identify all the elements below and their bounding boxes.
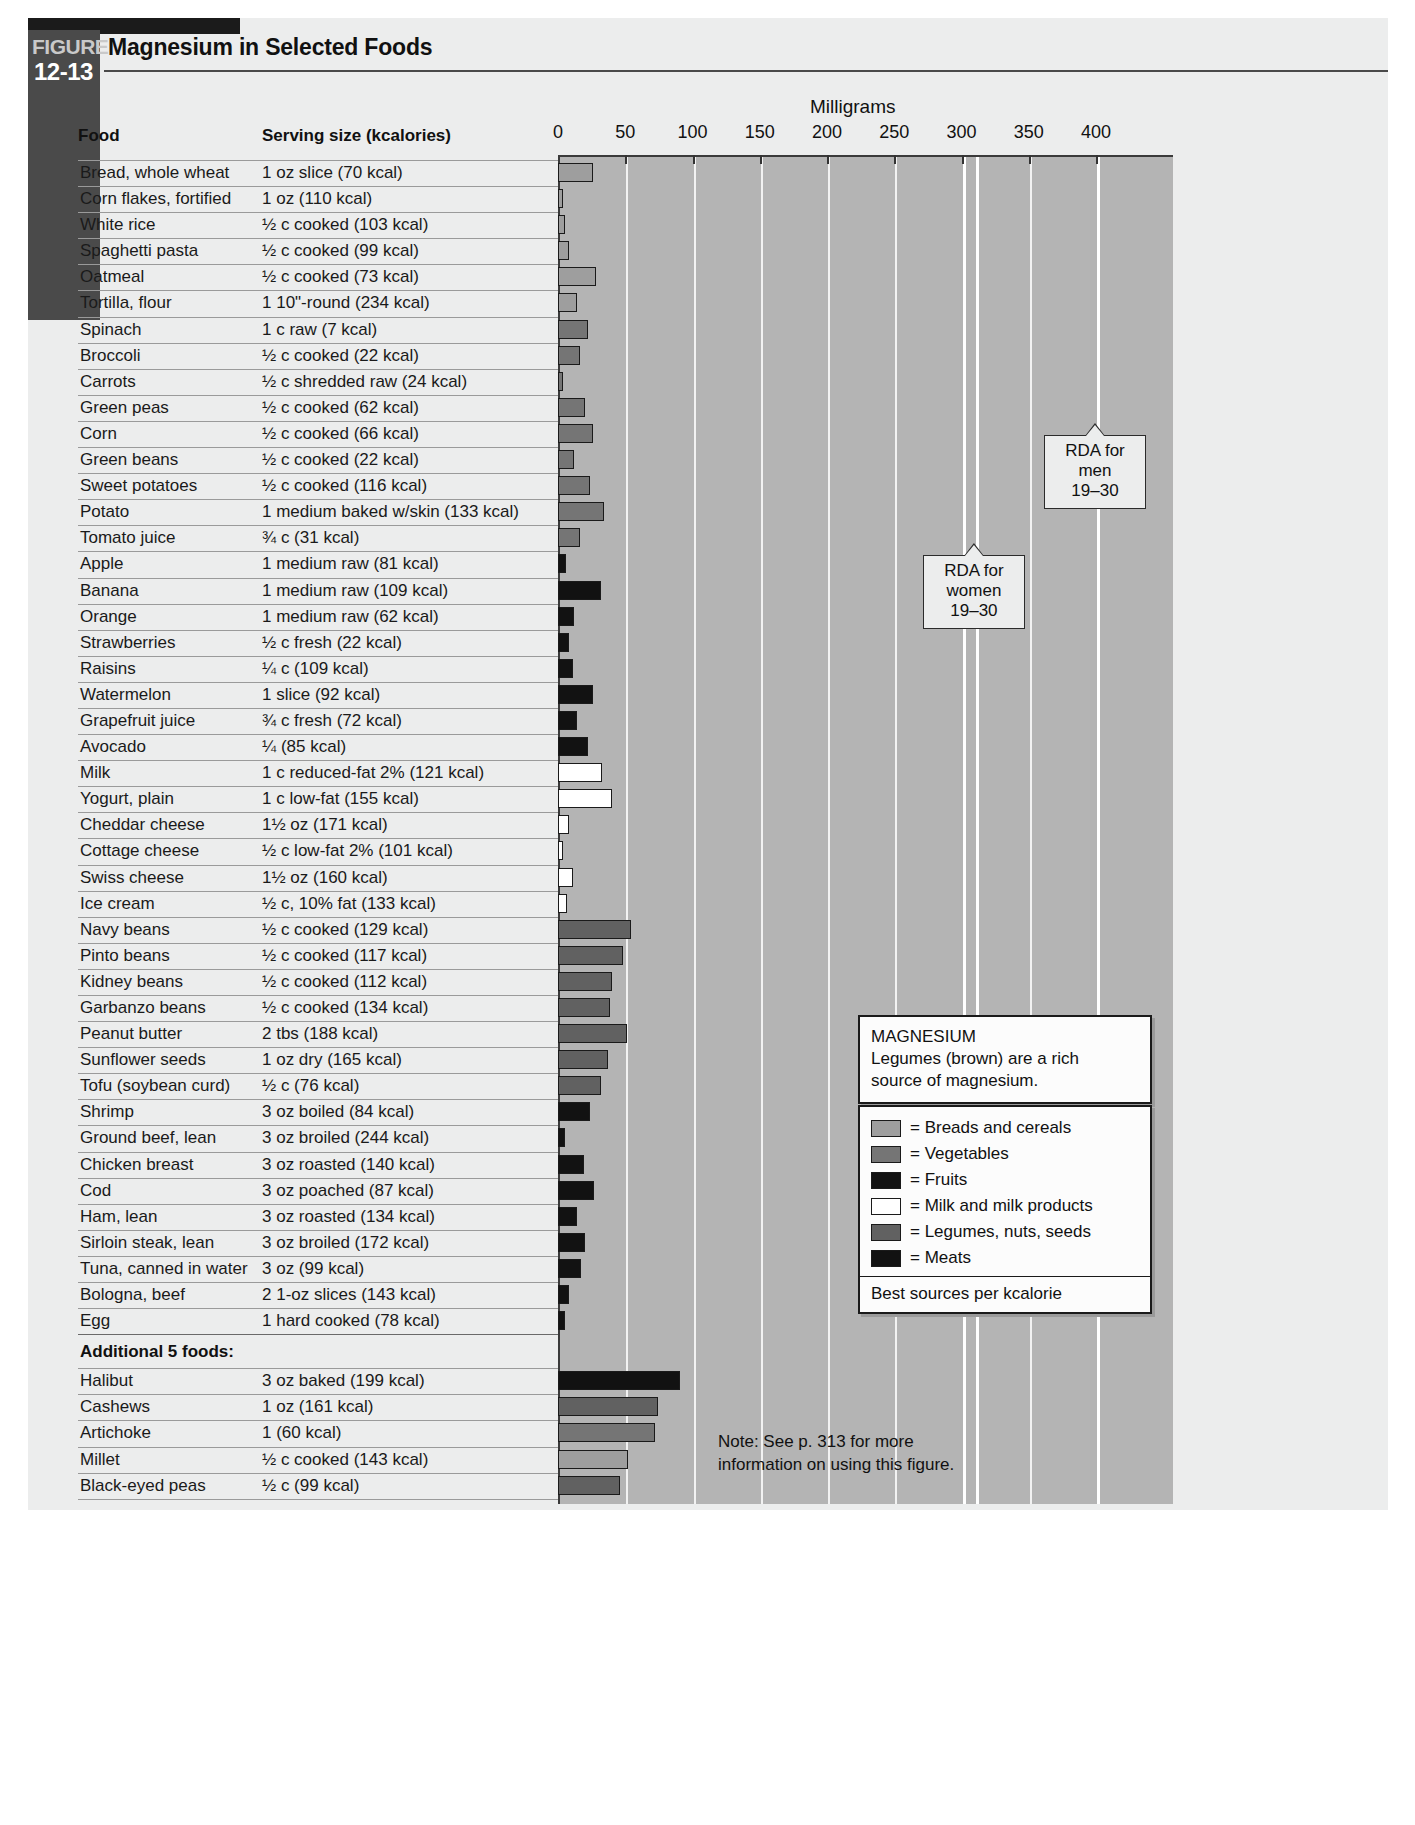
food-name: Artichoke xyxy=(80,1423,151,1443)
food-name: Egg xyxy=(80,1311,110,1331)
food-name: Spinach xyxy=(80,320,141,340)
legend-swatch-veg xyxy=(871,1146,901,1163)
bar-milk xyxy=(558,789,612,808)
bar-veg xyxy=(558,372,563,391)
food-name: Raisins xyxy=(80,659,136,679)
additional-foods-header: Additional 5 foods: xyxy=(78,1334,1173,1368)
callout-line: men xyxy=(1054,461,1136,481)
bar-milk xyxy=(558,763,602,782)
food-name: White rice xyxy=(80,215,156,235)
bar-meat xyxy=(558,1102,590,1121)
row-separator xyxy=(78,421,558,422)
row-separator xyxy=(78,812,558,813)
serving-size: ½ c fresh (22 kcal) xyxy=(262,633,402,653)
table-row: White rice½ c cooked (103 kcal) xyxy=(78,212,1173,238)
table-row: Cheddar cheese1½ oz (171 kcal) xyxy=(78,812,1173,838)
figure-number: 12-13 xyxy=(34,58,93,86)
legend-item-bread: = Breads and cereals xyxy=(871,1115,1139,1141)
food-name: Grapefruit juice xyxy=(80,711,195,731)
column-header-food: Food xyxy=(78,126,120,146)
serving-size: ½ c cooked (112 kcal) xyxy=(262,972,427,992)
food-name: Oatmeal xyxy=(80,267,144,287)
food-name: Chicken breast xyxy=(80,1155,193,1175)
info-title: MAGNESIUM xyxy=(871,1026,1139,1048)
table-row: Cottage cheese½ c low-fat 2% (101 kcal) xyxy=(78,838,1173,864)
rda-men-callout: RDA formen19–30 xyxy=(1044,435,1146,509)
food-name: Watermelon xyxy=(80,685,171,705)
bar-meat xyxy=(558,1181,594,1200)
food-name: Apple xyxy=(80,554,123,574)
bar-bread xyxy=(558,163,593,182)
callout-line: RDA for xyxy=(1054,441,1136,461)
food-name: Tofu (soybean curd) xyxy=(80,1076,230,1096)
row-separator xyxy=(78,786,558,787)
serving-size: 3 oz (99 kcal) xyxy=(262,1259,364,1279)
serving-size: 1½ oz (160 kcal) xyxy=(262,868,388,888)
serving-size: ½ c shredded raw (24 kcal) xyxy=(262,372,467,392)
serving-size: 1 medium raw (81 kcal) xyxy=(262,554,439,574)
info-body: Legumes (brown) are a richsource of magn… xyxy=(871,1048,1139,1092)
legend-box: = Breads and cereals= Vegetables= Fruits… xyxy=(858,1105,1152,1314)
serving-size: 1 slice (92 kcal) xyxy=(262,685,380,705)
bar-meat xyxy=(558,1233,585,1252)
figure-page: FIGURE 12-13 Magnesium in Selected Foods… xyxy=(0,0,1415,1825)
food-name: Millet xyxy=(80,1450,120,1470)
food-name: Sirloin steak, lean xyxy=(80,1233,214,1253)
food-name: Cashews xyxy=(80,1397,150,1417)
row-separator xyxy=(78,369,558,370)
axis-label-150: 150 xyxy=(745,122,775,143)
table-row: Pinto beans½ c cooked (117 kcal) xyxy=(78,943,1173,969)
row-separator xyxy=(78,238,558,239)
bar-meat xyxy=(558,1259,581,1278)
serving-size: 1 10"-round (234 kcal) xyxy=(262,293,430,313)
table-row: Navy beans½ c cooked (129 kcal) xyxy=(78,917,1173,943)
legend-swatch-bread xyxy=(871,1120,901,1137)
row-separator xyxy=(78,1021,558,1022)
bar-legume xyxy=(558,946,623,965)
row-separator xyxy=(78,578,558,579)
serving-size: ½ c cooked (62 kcal) xyxy=(262,398,419,418)
axis-label-250: 250 xyxy=(879,122,909,143)
bar-fruit xyxy=(558,737,588,756)
food-name: Halibut xyxy=(80,1371,133,1391)
bar-veg xyxy=(558,346,580,365)
callout-line: RDA for xyxy=(933,561,1015,581)
food-name: Bologna, beef xyxy=(80,1285,185,1305)
bar-fruit xyxy=(558,685,593,704)
bar-veg xyxy=(558,476,590,495)
food-name: Broccoli xyxy=(80,346,140,366)
serving-size: ½ c (76 kcal) xyxy=(262,1076,359,1096)
table-row: Potato1 medium baked w/skin (133 kcal) xyxy=(78,499,1173,525)
row-separator xyxy=(78,604,558,605)
serving-size: 1 c reduced-fat 2% (121 kcal) xyxy=(262,763,484,783)
bar-legume xyxy=(558,1076,601,1095)
table-row: Millet½ c cooked (143 kcal) xyxy=(78,1447,1173,1473)
food-name: Tortilla, flour xyxy=(80,293,172,313)
bar-fruit xyxy=(558,607,574,626)
table-row: Corn flakes, fortified1 oz (110 kcal) xyxy=(78,186,1173,212)
serving-size: ¾ c fresh (72 kcal) xyxy=(262,711,402,731)
food-name: Strawberries xyxy=(80,633,175,653)
bar-bread xyxy=(558,189,563,208)
bar-legume xyxy=(558,998,610,1017)
row-separator xyxy=(78,656,558,657)
serving-size: ½ c cooked (73 kcal) xyxy=(262,267,419,287)
row-separator xyxy=(78,1204,558,1205)
row-separator xyxy=(78,630,558,631)
row-separator xyxy=(78,1047,558,1048)
food-name: Ice cream xyxy=(80,894,155,914)
bar-meat xyxy=(558,1155,584,1174)
serving-size: 3 oz broiled (244 kcal) xyxy=(262,1128,429,1148)
table-row: Swiss cheese1½ oz (160 kcal) xyxy=(78,865,1173,891)
serving-size: ½ c cooked (116 kcal) xyxy=(262,476,427,496)
serving-size: 1 oz (161 kcal) xyxy=(262,1397,374,1417)
legend-swatch-fruit xyxy=(871,1172,901,1189)
table-row: Spinach1 c raw (7 kcal) xyxy=(78,317,1173,343)
bar-veg xyxy=(558,1423,655,1442)
food-name: Green beans xyxy=(80,450,178,470)
serving-size: 1 medium raw (109 kcal) xyxy=(262,581,448,601)
bar-meat xyxy=(558,1311,565,1330)
row-separator xyxy=(78,708,558,709)
row-separator xyxy=(78,760,558,761)
callout-line: 19–30 xyxy=(933,601,1015,621)
